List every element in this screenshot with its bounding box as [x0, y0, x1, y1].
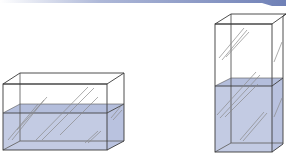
wide-tank [3, 73, 124, 150]
header-bar [0, 0, 286, 6]
tall-tank-water-front [215, 86, 272, 152]
tall-tank-water-side [272, 78, 283, 152]
diagram-canvas [0, 0, 286, 155]
tall-tank [215, 14, 286, 152]
